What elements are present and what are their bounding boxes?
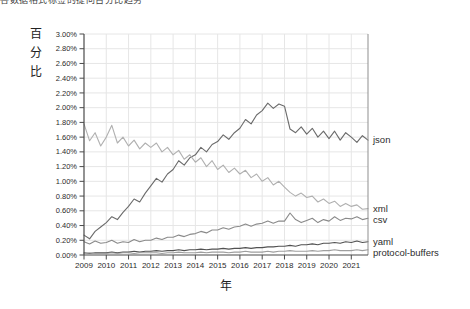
- series-line-csv: [84, 213, 368, 244]
- y-tick-label: 1.80%: [56, 118, 78, 127]
- y-tick-label: 1.60%: [56, 133, 78, 142]
- series-label-csv: csv: [373, 214, 387, 226]
- y-tick-label: 1.20%: [56, 162, 78, 171]
- y-tick-label: 0.60%: [56, 206, 78, 215]
- y-tick-label: 2.40%: [56, 74, 78, 83]
- x-tick-label: 2013: [164, 261, 182, 270]
- x-axis-title: 年: [84, 276, 368, 293]
- y-tick-label: 1.00%: [56, 177, 78, 186]
- y-tick-label: 0.20%: [56, 236, 78, 245]
- trend-chart-figure: 各数据格式标签的提问百分比趋势 百分比 0.00%0.20%0.40%0.60%…: [0, 0, 470, 309]
- series-line-yaml: [84, 241, 368, 254]
- x-tick-label: 2010: [97, 261, 115, 270]
- y-tick-label: 0.00%: [56, 251, 78, 260]
- x-tick-label: 2015: [209, 261, 227, 270]
- x-tick-label: 2016: [231, 261, 249, 270]
- x-tick-label: 2019: [298, 261, 316, 270]
- x-tick-label: 2012: [142, 261, 160, 270]
- y-tick-label: 0.40%: [56, 221, 78, 230]
- x-tick-label: 2018: [276, 261, 294, 270]
- series-label-json: json: [373, 134, 390, 146]
- x-tick-label: 2020: [320, 261, 338, 270]
- y-tick-label: 0.80%: [56, 192, 78, 201]
- series-label-protocol-buffers: protocol-buffers: [373, 247, 439, 259]
- y-tick-label: 3.00%: [56, 30, 78, 39]
- y-tick-label: 2.20%: [56, 89, 78, 98]
- x-tick-label: 2017: [253, 261, 271, 270]
- x-tick-label: 2009: [75, 261, 93, 270]
- y-tick-label: 2.80%: [56, 44, 78, 53]
- series-line-json: [84, 103, 368, 239]
- y-tick-label: 2.60%: [56, 59, 78, 68]
- x-tick-label: 2011: [120, 261, 138, 270]
- x-tick-label: 2014: [186, 261, 204, 270]
- y-tick-label: 2.00%: [56, 103, 78, 112]
- line-chart-plot: 0.00%0.20%0.40%0.60%0.80%1.00%1.20%1.40%…: [0, 0, 470, 309]
- x-tick-label: 2021: [342, 261, 360, 270]
- y-tick-label: 1.40%: [56, 147, 78, 156]
